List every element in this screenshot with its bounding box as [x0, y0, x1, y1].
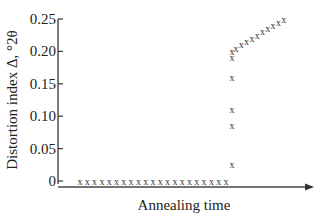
data-point-marker: x — [230, 104, 235, 115]
y-tick-label: 0.10 — [30, 108, 56, 124]
data-point-marker: x — [202, 176, 207, 187]
data-point-marker: x — [194, 176, 199, 187]
y-tick-label: 0.15 — [30, 76, 56, 92]
data-point-marker: x — [121, 176, 126, 187]
data-point-marker: x — [255, 30, 260, 41]
data-point-marker: x — [271, 20, 276, 31]
data-point-marker: x — [92, 176, 97, 187]
scatter-chart: 00.050.100.150.200.25 xxxxxxxxxxxxxxxxxx… — [0, 0, 321, 221]
data-point-marker: x — [85, 176, 90, 187]
y-axis: 00.050.100.150.200.25 — [30, 11, 63, 189]
data-point-marker: x — [158, 176, 163, 187]
data-point-marker: x — [230, 159, 235, 170]
data-point-marker: x — [187, 176, 192, 187]
y-tick-label: 0.05 — [30, 141, 56, 157]
data-point-marker: x — [180, 176, 185, 187]
data-point-marker: x — [99, 176, 104, 187]
data-point-marker: x — [143, 176, 148, 187]
data-point-marker: x — [129, 176, 134, 187]
data-point-marker: x — [260, 26, 265, 37]
y-tick-label: 0.20 — [30, 43, 56, 59]
data-point-marker: x — [151, 176, 156, 187]
data-point-marker: x — [136, 176, 141, 187]
data-point-marker: x — [216, 176, 221, 187]
data-points: xxxxxxxxxxxxxxxxxxxxxxxxxxxxxxxxxxxxx — [78, 14, 287, 187]
y-tick-label: 0 — [49, 173, 57, 189]
data-point-marker: x — [230, 72, 235, 83]
data-point-marker: x — [265, 23, 270, 34]
data-point-marker: x — [239, 39, 244, 50]
data-point-marker: x — [172, 176, 177, 187]
data-point-marker: x — [276, 17, 281, 28]
data-point-marker: x — [114, 176, 119, 187]
x-axis-title: Annealing time — [138, 197, 231, 213]
data-point-marker: x — [107, 176, 112, 187]
data-point-marker: x — [230, 120, 235, 131]
data-point-marker: x — [244, 36, 249, 47]
data-point-marker: x — [165, 176, 170, 187]
data-point-marker: x — [209, 176, 214, 187]
y-axis-title: Distortion index Δ, °2θ — [4, 30, 20, 170]
data-point-marker: x — [249, 33, 254, 44]
x-axis-arrow-icon — [305, 184, 314, 191]
y-tick-label: 0.25 — [30, 11, 56, 27]
data-point-marker: x — [281, 14, 286, 25]
data-point-marker: x — [224, 176, 229, 187]
data-point-marker: x — [234, 43, 239, 54]
data-point-marker: x — [78, 176, 83, 187]
